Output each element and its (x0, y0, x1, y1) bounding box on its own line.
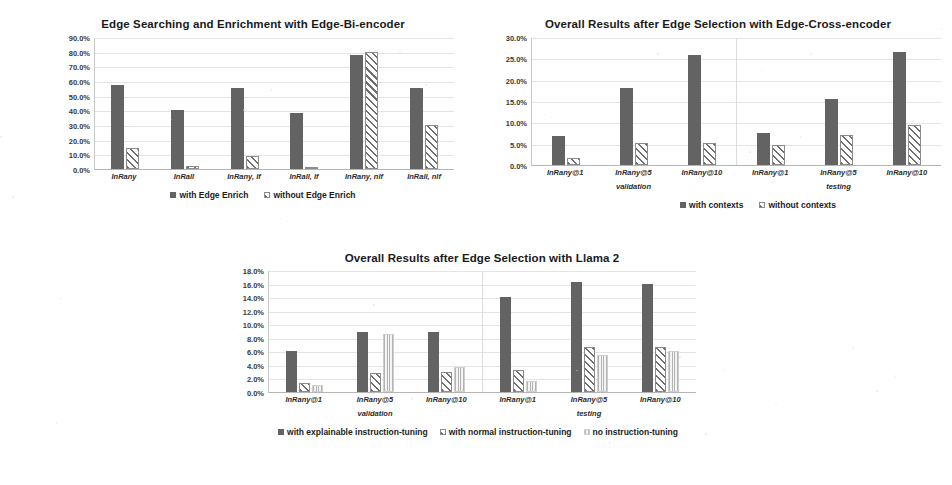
y-axis-tick: 6.0% (247, 348, 264, 357)
scan-speckle (426, 474, 427, 475)
scan-speckle (936, 324, 937, 325)
bar-group (736, 38, 805, 165)
scan-speckle (749, 151, 751, 153)
y-axis-tick: 4.0% (247, 361, 264, 370)
y-axis-tick: 14.0% (243, 294, 264, 303)
legend-swatch-icon (170, 192, 176, 198)
scan-speckle (263, 278, 264, 279)
scan-speckle (852, 348, 854, 350)
bar-group (805, 38, 873, 165)
bar-group (532, 38, 600, 165)
legend-swatch-icon (584, 429, 590, 435)
scan-speckle (868, 188, 869, 189)
bar (428, 332, 439, 392)
x-axis-label: InRany@5 (599, 168, 667, 177)
x-axis-label: InRany@10 (873, 168, 941, 177)
scan-speckle (171, 119, 172, 120)
x-axis-group-label: validation (531, 182, 736, 191)
scan-speckle (775, 403, 777, 405)
y-axis-tick: 18.0% (243, 267, 264, 276)
scan-speckle (49, 432, 50, 433)
bar (231, 88, 244, 169)
y-axis-tick: 16.0% (243, 280, 264, 289)
legend-item[interactable]: without contexts (759, 200, 836, 210)
scan-speckle (842, 223, 843, 224)
bar-stack (269, 271, 340, 392)
chart-edge-bi-encoder: Edge Searching and Enrichment with Edge-… (48, 18, 458, 200)
bar (370, 373, 381, 392)
legend-item[interactable]: with Edge Enrich (170, 190, 248, 200)
bar (772, 145, 785, 165)
legend-item[interactable]: with normal instruction-tuning (440, 427, 572, 437)
bar-stack (274, 38, 334, 169)
y-axis-tick: 25.0% (506, 55, 527, 64)
x-axis-group-labels: validationtesting (531, 182, 941, 191)
y-axis: 30.0%25.0%20.0%15.0%10.0%5.0%0.0% (487, 38, 531, 166)
scan-speckle (152, 289, 153, 290)
scan-speckle (483, 122, 484, 123)
bar (757, 133, 770, 165)
legend-swatch-icon (278, 429, 284, 435)
y-axis-tick: 40.0% (69, 107, 90, 116)
y-axis-tick: 2.0% (247, 375, 264, 384)
x-axis-label: InRany, nlf (334, 172, 394, 181)
y-axis-tick: 15.0% (506, 98, 527, 107)
x-axis-label: InRany@1 (268, 395, 339, 404)
scan-speckle (271, 89, 272, 90)
bar (567, 158, 580, 165)
bar (635, 143, 648, 165)
y-axis-tick: 20.0% (506, 76, 527, 85)
chart-title: Overall Results after Edge Selection wit… (222, 252, 742, 264)
bar (441, 372, 452, 392)
scan-speckle (884, 120, 885, 121)
bar-stack (625, 271, 696, 392)
x-axis-group-label: testing (736, 182, 941, 191)
bar-stack (483, 271, 554, 392)
bar (500, 297, 511, 392)
bar-group (482, 271, 554, 392)
x-axis-label: InRany@1 (736, 168, 804, 177)
chart-legend: with contextswithout contexts (567, 200, 949, 210)
bar-groups (95, 38, 454, 169)
legend-item[interactable]: with contexts (680, 200, 743, 210)
y-axis-tick: 10.0% (506, 119, 527, 128)
legend-label: with normal instruction-tuning (449, 427, 572, 437)
y-axis-tick: 0.0% (510, 162, 527, 171)
legend-swatch-icon (440, 429, 446, 435)
chart-legend: with Edge Enrichwithout Edge Enrich (68, 190, 458, 200)
bar (642, 284, 653, 392)
legend-item[interactable]: no instruction-tuning (584, 427, 678, 437)
x-axis-labels: InRany@1InRany@5InRany@10InRany@1InRany@… (268, 395, 696, 404)
x-axis-label: InRany@1 (531, 168, 599, 177)
scan-speckle (800, 136, 801, 137)
scan-speckle (29, 35, 30, 36)
bar (312, 385, 323, 392)
scan-speckle (946, 101, 947, 102)
bar-group (95, 38, 155, 169)
legend-item[interactable]: without Edge Enrich (264, 190, 355, 200)
scan-speckle (60, 298, 61, 299)
scan-speckle (373, 304, 374, 305)
bar (171, 110, 184, 169)
scan-speckle (193, 430, 194, 431)
y-axis-tick: 0.0% (247, 389, 264, 398)
legend-item[interactable]: with explainable instruction-tuning (278, 427, 428, 437)
bar-stack (95, 38, 155, 169)
scan-speckle (411, 398, 413, 400)
legend-label: without contexts (768, 200, 836, 210)
bar-group (411, 271, 482, 392)
bar (425, 125, 438, 169)
scan-speckle (280, 218, 281, 219)
scan-speckle (761, 71, 762, 72)
bar (688, 55, 701, 165)
scan-speckle (625, 185, 626, 186)
bar-stack (411, 271, 482, 392)
chart-edge-cross-encoder: Overall Results after Edge Selection wit… (487, 18, 949, 210)
scan-speckle (133, 125, 134, 126)
bar-group (668, 38, 736, 165)
bar-group (600, 38, 668, 165)
scan-speckle (825, 441, 826, 442)
x-axis-label: InRany@10 (625, 395, 696, 404)
y-axis-tick: 30.0% (69, 122, 90, 131)
plot-canvas (268, 271, 696, 393)
